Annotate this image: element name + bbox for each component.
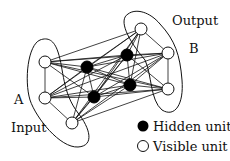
- hidden-unit-4: [124, 79, 136, 91]
- legend-icons: [138, 121, 149, 152]
- visible-unit-legend-icon: [138, 141, 149, 152]
- visible-unit-b1: [162, 47, 174, 59]
- input-label: Input: [11, 121, 46, 134]
- visible-unit-a1: [39, 56, 51, 68]
- hidden-unit-legend-label: Hidden unit: [153, 120, 230, 133]
- hidden-unit-1: [81, 61, 93, 73]
- visible-unit-legend-label: Visible unit: [153, 140, 228, 153]
- output-label: Output: [172, 14, 218, 27]
- hidden-unit-3: [88, 91, 100, 103]
- visible-unit-b0: [135, 23, 147, 35]
- hidden-unit-legend-icon: [138, 121, 149, 132]
- group-a-label: A: [14, 93, 23, 106]
- group-b-label: B: [189, 42, 199, 55]
- visible-unit-b2: [162, 83, 174, 95]
- visible-unit-a3: [66, 117, 78, 129]
- hidden-unit-2: [121, 49, 133, 61]
- visible-unit-a2: [39, 92, 51, 104]
